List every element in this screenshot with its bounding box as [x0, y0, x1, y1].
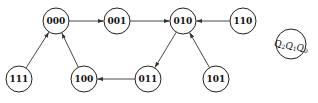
state-node-110: 110 — [230, 8, 256, 34]
state-label: 000 — [47, 16, 66, 26]
state-node-001: 001 — [104, 8, 130, 34]
state-node-010: 010 — [170, 8, 196, 34]
state-label: 001 — [108, 16, 127, 26]
state-diagram: 000001010110111100011101 Q2Q1Q0 — [0, 0, 318, 103]
state-node-111: 111 — [6, 66, 32, 92]
state-label: 011 — [139, 74, 158, 84]
edge-111-to-000 — [26, 32, 49, 68]
edge-101-to-010 — [190, 33, 210, 68]
state-label: 100 — [75, 74, 94, 84]
edge-010-to-011 — [155, 32, 176, 67]
state-label: 101 — [207, 74, 226, 84]
state-label: 111 — [10, 74, 29, 84]
state-node-100: 100 — [71, 66, 97, 92]
state-node-011: 011 — [135, 66, 161, 92]
state-label: 110 — [234, 16, 253, 26]
state-node-000: 000 — [43, 8, 69, 34]
edge-100-to-000 — [62, 33, 78, 67]
legend-state-variables: Q2Q1Q0 — [274, 29, 308, 59]
state-label: 010 — [174, 16, 193, 26]
state-node-101: 101 — [203, 66, 229, 92]
